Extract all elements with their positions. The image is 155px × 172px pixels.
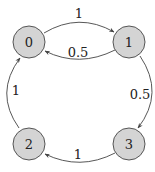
node-label-0: 0 [25,35,33,50]
state-diagram: 1 0.5 0.5 1 1 0 1 2 3 [0,0,155,172]
node-0: 0 [13,26,45,58]
node-1: 1 [113,26,145,58]
node-label-3: 3 [125,137,133,152]
edge-label-1-to-3: 0.5 [130,87,151,102]
node-label-1: 1 [125,35,133,50]
node-label-2: 2 [25,137,33,152]
edge-label-3-to-2: 1 [74,147,82,162]
edge-0-to-1 [44,22,114,33]
edge-label-0-to-1: 1 [75,6,83,21]
edge-label-1-to-0: 0.5 [68,45,89,60]
edge-label-2-to-0: 1 [12,83,20,98]
node-2: 2 [13,128,45,160]
node-3: 3 [113,128,145,160]
